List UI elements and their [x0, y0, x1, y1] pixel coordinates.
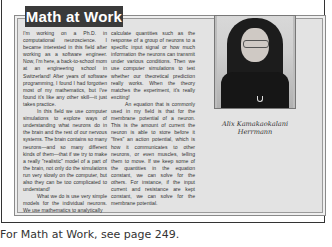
- text-column-1: I'm working on a Ph.D. in computational …: [23, 30, 107, 214]
- photo-clothing: [221, 72, 289, 108]
- section-title: Math at Work: [25, 6, 123, 27]
- portrait-photo: [217, 16, 293, 108]
- portrait-photo-frame: [214, 15, 296, 109]
- paragraph: calculate quantities such as the respons…: [111, 30, 195, 101]
- photo-glasses: [243, 40, 269, 48]
- paragraph: I'm working on a Ph.D. in computational …: [23, 30, 107, 108]
- page-reference: For Math at Work, see page 249.: [0, 228, 179, 241]
- text-column-2: calculate quantities such as the respons…: [111, 30, 195, 207]
- photo-caption: Alix Kamakaokalani Herrmann: [205, 120, 305, 136]
- caption-name-line-1: Alix Kamakaokalani: [205, 120, 305, 128]
- caption-name-line-2: Herrmann: [205, 128, 305, 136]
- paragraph: What we do is use very simple models for…: [23, 193, 107, 214]
- photo-pendant: [257, 96, 263, 102]
- paragraph: An equation that is commonly used in my …: [111, 101, 195, 207]
- paragraph: In this field we use computer simulation…: [23, 108, 107, 193]
- page-frame: Math at Work I'm working on a Ph.D. in c…: [1, 0, 325, 223]
